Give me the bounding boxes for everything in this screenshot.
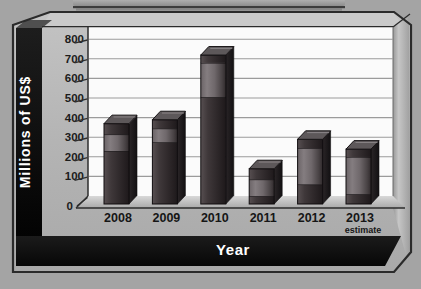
bar-side-face — [226, 47, 234, 204]
bar-front-segment — [346, 194, 371, 204]
figure: 8007006005004003002001000 20082009201020… — [0, 0, 421, 289]
top-cropped-strip — [73, 0, 345, 11]
y-axis-title: Millions of US$ — [17, 76, 33, 188]
bar-front-segment — [298, 184, 323, 204]
bar-front-segment — [298, 148, 323, 184]
chart-3d-bar: 8007006005004003002001000 20082009201020… — [0, 0, 421, 289]
bar-group — [152, 111, 185, 204]
bar-group — [298, 131, 331, 204]
y-tick-label: 400 — [65, 112, 84, 124]
y-tick-label: 0 — [67, 200, 73, 212]
bar-group — [346, 141, 379, 204]
bar-front-segment — [104, 134, 129, 151]
bottom-wall — [16, 236, 401, 266]
bar-front-segment — [152, 142, 177, 204]
y-tick-label: 500 — [65, 92, 84, 104]
bar-front-segment — [249, 169, 274, 180]
bar-group — [249, 160, 282, 204]
bar-front-segment — [152, 129, 177, 143]
bar-front-segment — [249, 196, 274, 204]
x-category-label: 2013 — [346, 211, 374, 225]
bar-front-segment — [298, 139, 323, 148]
y-tick-label: 200 — [65, 151, 84, 163]
bar-side-face — [129, 115, 137, 204]
bar-front-segment — [201, 63, 226, 97]
bar-group — [201, 47, 234, 204]
y-tick-label: 300 — [65, 131, 84, 143]
bar-front-segment — [201, 55, 226, 63]
x-category-label: 2009 — [152, 211, 180, 225]
bar-front-segment — [104, 151, 129, 204]
bar-front-segment — [346, 157, 371, 194]
bar-front-segment — [346, 149, 371, 157]
x-category-label: 2011 — [250, 211, 277, 225]
x-category-label: 2010 — [201, 211, 229, 225]
x-category-label: 2008 — [104, 211, 132, 225]
y-tick-label: 600 — [65, 72, 84, 84]
bar-side-face — [177, 111, 185, 204]
bar-group — [104, 115, 137, 204]
bar-front-segment — [249, 180, 274, 197]
y-tick-label: 800 — [65, 33, 84, 45]
bar-side-face — [323, 131, 331, 204]
bar-front-segment — [201, 97, 226, 204]
bar-front-segment — [104, 124, 129, 135]
bar-side-face — [371, 141, 379, 204]
y-tick-label: 100 — [65, 170, 84, 182]
bar-front-segment — [152, 120, 177, 129]
frame-top-face — [42, 13, 403, 26]
x-category-sublabel: estimate — [345, 225, 382, 235]
y-tick-label: 700 — [65, 53, 84, 65]
x-axis-title: Year — [216, 241, 250, 258]
x-category-label: 2012 — [298, 211, 326, 225]
